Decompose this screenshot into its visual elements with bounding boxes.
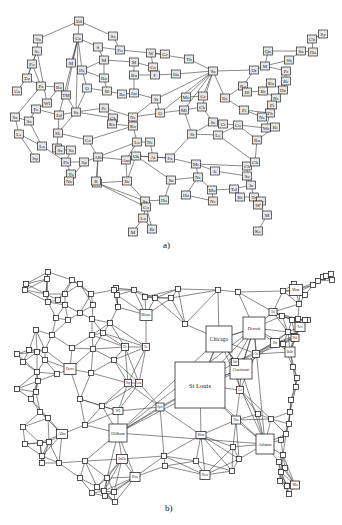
graph-node xyxy=(43,358,48,363)
graph-edge xyxy=(59,461,85,463)
graph-edge xyxy=(178,289,218,290)
node-label: Mo xyxy=(183,95,190,100)
graph-node xyxy=(56,298,61,303)
city-label: Ind xyxy=(233,360,237,364)
city-node: Baltc xyxy=(285,347,295,357)
node-label: Lo xyxy=(39,144,45,149)
graph-node xyxy=(329,272,334,277)
node-label: WI xyxy=(44,101,51,106)
node-label: Ch xyxy=(252,160,258,165)
graph-edge xyxy=(37,372,57,374)
node-label: Pe xyxy=(34,107,40,112)
graph-node xyxy=(101,331,106,336)
graph-edge xyxy=(218,135,255,162)
graph-node xyxy=(70,278,75,283)
graph-node: Sa xyxy=(25,117,34,125)
graph-node: Ko xyxy=(129,122,138,130)
graph-edge xyxy=(23,418,48,427)
graph-node: Ch xyxy=(198,103,207,111)
graph-node xyxy=(108,321,113,326)
node-label: M xyxy=(102,58,107,63)
graph-node xyxy=(295,376,300,381)
city-label: Cincinnati xyxy=(233,367,251,372)
node-label: Mi xyxy=(181,108,187,113)
graph-edge xyxy=(52,335,72,348)
graph-node: M xyxy=(100,56,109,64)
city-node: Denv xyxy=(64,364,76,375)
node-label: At xyxy=(151,155,157,160)
node-label: Ro xyxy=(254,138,260,143)
graph-node xyxy=(176,287,181,292)
graph-node xyxy=(116,305,121,310)
node-label: Sa xyxy=(211,69,217,74)
node-label: Ca xyxy=(150,65,156,70)
node-label: Gr xyxy=(162,52,168,57)
graph-node xyxy=(78,311,83,316)
graph-node xyxy=(63,303,68,308)
graph-node: Bo xyxy=(55,83,64,91)
graph-node xyxy=(21,425,26,430)
city-node: De xyxy=(143,344,150,351)
node-label: M xyxy=(265,213,270,218)
graph-node: Co xyxy=(84,136,93,144)
graph-node xyxy=(63,292,68,297)
node-label: Ha xyxy=(310,50,317,55)
node-label: Br xyxy=(261,89,266,94)
city-label: Hou xyxy=(132,475,138,479)
city-node: New xyxy=(200,471,210,480)
graph-node xyxy=(230,469,235,474)
graph-node: M xyxy=(263,211,272,219)
node-label: Sa xyxy=(69,148,75,153)
graph-node xyxy=(286,330,291,335)
city-label: Mem xyxy=(198,433,205,437)
graph-edge xyxy=(80,399,102,406)
node-label: Sa xyxy=(58,148,64,153)
graph-edge xyxy=(93,347,125,349)
graph-node xyxy=(38,410,43,415)
graph-edge xyxy=(151,53,189,59)
graph-edge xyxy=(118,433,265,444)
graph-node: Sp xyxy=(80,158,89,166)
graph-node: Pa xyxy=(37,82,46,90)
graph-node: Ne xyxy=(194,173,203,181)
graph-node xyxy=(236,290,241,295)
graph-edge xyxy=(59,38,78,115)
city-label: Atlanta xyxy=(258,442,271,447)
node-label: Fa xyxy=(168,156,174,161)
graph-node: St xyxy=(152,95,161,103)
graph-node: Sa xyxy=(243,172,252,180)
graph-node: Va xyxy=(34,35,43,43)
graph-node: Sy xyxy=(319,30,328,38)
node-label: Fr xyxy=(284,69,289,74)
city-node: Nex xyxy=(295,323,305,332)
graph-node: Ca xyxy=(149,63,158,71)
graph-node xyxy=(24,282,29,287)
graph-node xyxy=(83,423,88,428)
graph-node xyxy=(330,278,335,283)
graph-node: Ha xyxy=(279,86,288,94)
graph-node: Pe xyxy=(100,104,109,112)
node-label: Bl xyxy=(245,90,250,95)
graph-node: TM xyxy=(62,91,71,99)
graph-node: Gr xyxy=(161,50,170,58)
node-label: Sa xyxy=(245,174,251,179)
node-label: Bu xyxy=(131,73,137,78)
graph-node xyxy=(54,316,59,321)
node-label: Tu xyxy=(68,172,74,177)
node-label: Ne xyxy=(210,199,217,204)
graph-node xyxy=(90,491,95,496)
node-label: Ca xyxy=(75,36,81,41)
graph-node: W xyxy=(147,49,156,57)
graph-node: At xyxy=(149,153,158,161)
node-label: Br xyxy=(125,179,130,184)
graph-node xyxy=(162,454,167,459)
graph-node xyxy=(291,365,296,370)
node-label: Co xyxy=(85,138,91,143)
graph-node: St xyxy=(188,130,197,138)
city-label: Nas xyxy=(234,418,240,422)
city-label: Dalla xyxy=(118,457,126,461)
graph-node xyxy=(296,317,301,322)
graph-node: Ca xyxy=(74,34,83,42)
graph-node xyxy=(44,292,49,297)
graph-node: B xyxy=(92,177,101,185)
